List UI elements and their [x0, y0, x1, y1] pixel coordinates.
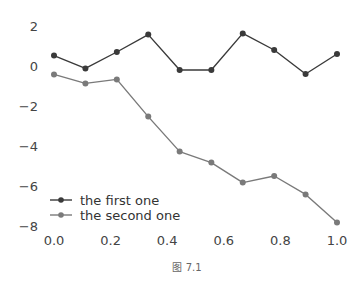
series-path: [54, 33, 337, 74]
x-tick-label: 0.0: [44, 233, 65, 248]
legend-item: the first one: [50, 193, 159, 208]
data-point-marker: [82, 65, 88, 71]
data-point-marker: [177, 149, 183, 155]
line-chart: 20−2−4−6−8 0.00.20.40.60.81.0 the first …: [0, 0, 363, 290]
data-point-marker: [208, 160, 214, 166]
legend-marker-icon: [58, 197, 64, 203]
data-point-marker: [177, 67, 183, 73]
data-point-marker: [271, 47, 277, 53]
series-line: [51, 30, 340, 77]
legend-label: the second one: [80, 208, 180, 223]
data-point-marker: [145, 114, 151, 120]
y-tick-label: −4: [19, 139, 38, 154]
data-point-marker: [271, 173, 277, 179]
data-point-marker: [51, 71, 57, 77]
data-point-marker: [334, 51, 340, 57]
figure-caption: 图 7.1: [172, 262, 201, 273]
y-tick-label: −8: [19, 219, 38, 234]
data-point-marker: [51, 53, 57, 59]
data-point-marker: [145, 32, 151, 38]
legend-label: the first one: [80, 193, 159, 208]
y-tick-label: 2: [30, 19, 38, 34]
data-point-marker: [114, 76, 120, 82]
data-point-marker: [208, 67, 214, 73]
y-tick-label: −6: [19, 179, 38, 194]
x-axis-ticks: 0.00.20.40.60.81.0: [44, 233, 348, 248]
x-tick-label: 0.2: [100, 233, 121, 248]
legend: the first onethe second one: [50, 193, 180, 223]
data-point-marker: [82, 80, 88, 86]
data-point-marker: [303, 71, 309, 77]
y-tick-label: 0: [30, 59, 38, 74]
data-point-marker: [303, 191, 309, 197]
y-axis-ticks: 20−2−4−6−8: [19, 19, 38, 234]
x-tick-label: 1.0: [327, 233, 348, 248]
data-point-marker: [334, 220, 340, 226]
legend-item: the second one: [50, 208, 180, 223]
data-point-marker: [240, 180, 246, 186]
y-tick-label: −2: [19, 99, 38, 114]
x-tick-label: 0.8: [270, 233, 291, 248]
data-point-marker: [240, 30, 246, 36]
data-point-marker: [114, 49, 120, 55]
x-tick-label: 0.6: [213, 233, 234, 248]
legend-marker-icon: [58, 212, 64, 218]
x-tick-label: 0.4: [157, 233, 178, 248]
